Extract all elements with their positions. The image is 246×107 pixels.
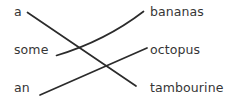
left-item-some[interactable]: some <box>14 42 48 58</box>
left-word-column: a some an <box>14 0 114 107</box>
left-item-an[interactable]: an <box>14 80 30 96</box>
right-item-bananas[interactable]: bananas <box>150 4 204 20</box>
left-item-a[interactable]: a <box>14 4 22 20</box>
right-item-octopus[interactable]: octopus <box>150 42 200 58</box>
right-item-tambourine[interactable]: tambourine <box>150 80 223 96</box>
matching-exercise: a some an bananas octopus tambourine <box>0 0 246 107</box>
right-word-column: bananas octopus tambourine <box>150 0 246 107</box>
